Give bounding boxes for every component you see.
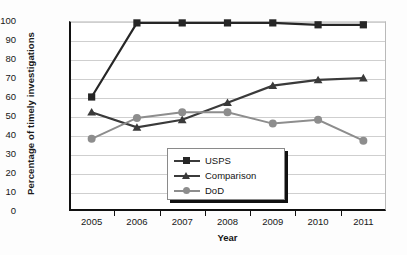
triangle-data-point: [87, 108, 96, 116]
circle-data-point: [88, 135, 96, 143]
chart-legend: USPS Comparison DoD: [167, 148, 285, 200]
circle-data-point: [224, 108, 232, 116]
circle-data-point: [314, 116, 322, 124]
legend-item-dod: DoD: [174, 183, 284, 198]
square-data-point: [133, 19, 140, 26]
circle-data-point: [269, 120, 277, 128]
legend-label-comparison: Comparison: [200, 170, 256, 181]
square-data-point: [179, 19, 186, 26]
circle-data-point: [133, 114, 141, 122]
legend-item-comparison: Comparison: [174, 168, 284, 183]
circle-marker-icon: [174, 184, 200, 197]
circle-data-point: [359, 137, 367, 145]
square-data-point: [269, 19, 276, 26]
legend-label-dod: DoD: [200, 185, 224, 196]
square-data-point: [224, 19, 231, 26]
square-data-point: [314, 21, 321, 28]
triangle-marker-icon: [174, 169, 200, 182]
series-dod: [88, 108, 368, 145]
line-chart: Percentage of timely investigations 1009…: [0, 0, 407, 255]
square-data-point: [88, 93, 95, 100]
data-series-layer: [0, 0, 407, 255]
legend-item-usps: USPS: [174, 153, 284, 168]
circle-data-point: [178, 108, 186, 116]
legend-label-usps: USPS: [200, 155, 231, 166]
series-line: [92, 23, 364, 97]
square-marker-icon: [174, 154, 200, 167]
square-data-point: [360, 21, 367, 28]
series-usps: [88, 19, 367, 100]
